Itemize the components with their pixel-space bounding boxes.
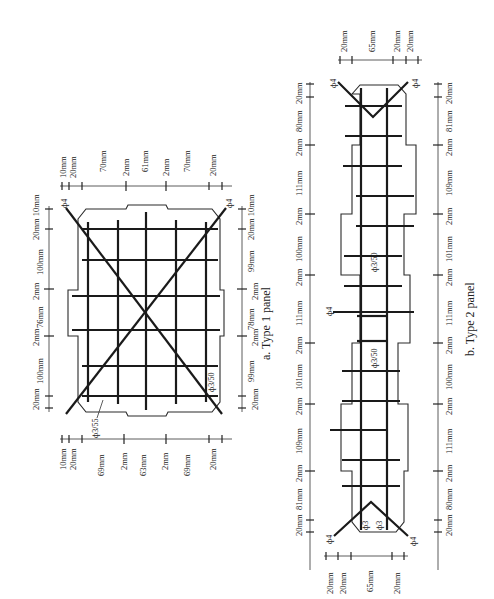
svg-text:100mm: 100mm: [35, 249, 45, 275]
svg-text:65mm: 65mm: [365, 570, 375, 592]
svg-text:2mm: 2mm: [294, 397, 304, 415]
type2-bottom-bar-label-1: ф3: [361, 521, 370, 530]
type2-diag-label-bottom-left: ф4: [325, 535, 334, 544]
svg-text:2mm: 2mm: [121, 158, 131, 176]
svg-text:20mm: 20mm: [250, 388, 260, 410]
svg-text:2mm: 2mm: [444, 336, 454, 354]
svg-text:100mm: 100mm: [444, 364, 454, 390]
svg-text:20mm: 20mm: [339, 30, 349, 52]
type2-left-dimension-line: [305, 82, 315, 570]
type1-right-dimension-labels: 20mm 10mm 99mm 2mm 78mm 2mm 99mm 20mm: [246, 194, 260, 410]
svg-text:2mm: 2mm: [160, 452, 170, 470]
svg-text:20mm: 20mm: [325, 572, 335, 594]
svg-text:2mm: 2mm: [444, 138, 454, 156]
svg-text:20mm: 20mm: [392, 30, 402, 52]
type2-transverse-rebars: [330, 106, 414, 486]
svg-text:2mm: 2mm: [294, 268, 304, 286]
svg-text:81mm: 81mm: [294, 488, 304, 510]
svg-text:109mm: 109mm: [294, 428, 304, 454]
svg-text:2mm: 2mm: [444, 464, 454, 482]
svg-text:81mm: 81mm: [444, 110, 454, 132]
type2-diag-label-top-right: ф4: [411, 79, 420, 88]
svg-text:69mm: 69mm: [96, 454, 106, 476]
svg-text:20mm: 20mm: [68, 156, 78, 178]
svg-text:2mm: 2mm: [294, 207, 304, 225]
svg-text:111mm: 111mm: [294, 300, 304, 326]
svg-text:100mm: 100mm: [294, 236, 304, 262]
type2-diag-label-bottom-right: ф4: [409, 537, 418, 546]
type1-mesh-label-left: ф3/55: [91, 419, 100, 438]
svg-text:111mm: 111mm: [444, 428, 454, 454]
svg-text:20mm: 20mm: [405, 30, 415, 52]
svg-text:20mm: 20mm: [392, 572, 402, 594]
svg-text:63mm: 63mm: [138, 454, 148, 476]
svg-text:61mm: 61mm: [140, 150, 150, 172]
type2-right-dimension-line: [433, 82, 443, 570]
svg-text:2mm: 2mm: [119, 452, 129, 470]
svg-text:20mm: 20mm: [294, 82, 304, 104]
svg-text:76mm: 76mm: [35, 306, 45, 328]
svg-text:70mm: 70mm: [182, 150, 192, 172]
type2-longitudinal-rebars: [361, 88, 387, 530]
type2-panel: 20mm 65mm 20mm 20mm 20mm 80mm 2mm 111mm …: [294, 30, 477, 594]
type1-top-dimension-line: [60, 181, 232, 191]
diagram-canvas: 10mm 20mm 70mm 2mm 61mm 2mm 70mm 20mm 20…: [0, 0, 494, 599]
type2-right-dimension-labels: 20mm 81mm 2mm 109mm 2mm 101mm 2mm 111mm …: [444, 82, 454, 536]
svg-text:20mm: 20mm: [31, 388, 41, 410]
svg-text:20mm: 20mm: [444, 82, 454, 104]
type1-panel: 10mm 20mm 70mm 2mm 61mm 2mm 70mm 20mm 20…: [31, 150, 273, 476]
type1-bottom-dimension-line: [60, 434, 232, 444]
type1-diag-label-top-left: ф4: [60, 199, 69, 208]
type2-bottom-dimension-line: [324, 552, 408, 560]
svg-text:10mm: 10mm: [58, 448, 68, 470]
type2-panel-outline: [341, 85, 416, 532]
svg-text:111mm: 111mm: [444, 300, 454, 326]
type1-caption: a. Type 1 panel: [259, 286, 273, 360]
type1-left-dimension-line: [44, 206, 54, 412]
type2-mesh-label-lower: ф3/50: [370, 349, 379, 368]
svg-text:65mm: 65mm: [367, 30, 377, 52]
svg-text:111mm: 111mm: [294, 170, 304, 196]
svg-text:20mm: 20mm: [444, 514, 454, 536]
type2-top-dimension-labels: 20mm 65mm 20mm 20mm: [339, 30, 415, 52]
svg-text:20mm: 20mm: [294, 514, 304, 536]
svg-text:2mm: 2mm: [444, 207, 454, 225]
svg-text:2mm: 2mm: [294, 138, 304, 156]
type1-top-dimension-labels: 10mm 20mm 70mm 2mm 61mm 2mm 70mm 20mm: [58, 150, 218, 178]
svg-text:69mm: 69mm: [182, 454, 192, 476]
svg-text:109mm: 109mm: [444, 170, 454, 196]
type2-diag-label-top-left: ф4: [329, 79, 338, 88]
type1-bottom-dimension-labels: 10mm 20mm 69mm 2mm 63mm 2mm 69mm 20mm: [58, 448, 218, 476]
svg-text:20mm: 20mm: [208, 154, 218, 176]
svg-text:80mm: 80mm: [444, 488, 454, 510]
svg-text:20mm: 20mm: [208, 448, 218, 470]
svg-text:101mm: 101mm: [294, 364, 304, 390]
type1-mesh-label-right: ф3/50: [207, 373, 216, 392]
svg-text:2mm: 2mm: [444, 268, 454, 286]
type2-end-diagonal-rebars: [334, 82, 408, 536]
type1-mesh-leader: [97, 400, 103, 418]
svg-text:2mm: 2mm: [294, 464, 304, 482]
type2-top-dimension-line: [338, 56, 422, 64]
svg-text:2mm: 2mm: [294, 336, 304, 354]
svg-text:20mm 10mm: 20mm 10mm: [31, 194, 41, 240]
type1-left-dimension-labels: 20mm 10mm 100mm 2mm 76mm 2mm 100mm 20mm: [31, 194, 45, 410]
type2-mesh-label-upper: ф3/50: [370, 253, 379, 272]
svg-text:100mm: 100mm: [35, 358, 45, 384]
svg-text:99mm: 99mm: [246, 360, 256, 382]
svg-text:2mm: 2mm: [31, 282, 41, 300]
svg-text:20mm 10mm: 20mm 10mm: [246, 194, 256, 240]
svg-text:70mm: 70mm: [98, 150, 108, 172]
type1-diag-label-top-right: ф4: [225, 199, 234, 208]
svg-text:80mm: 80mm: [294, 110, 304, 132]
svg-text:99mm: 99mm: [246, 250, 256, 272]
type2-caption: b. Type 2 panel: [463, 282, 477, 356]
svg-text:10mm: 10mm: [58, 156, 68, 178]
svg-text:20mm: 20mm: [338, 572, 348, 594]
svg-text:2mm: 2mm: [161, 158, 171, 176]
type2-left-dimension-labels: 20mm 80mm 2mm 111mm 2mm 100mm 2mm 111mm …: [294, 82, 304, 536]
type2-bottom-bar-label-2: ф3: [375, 521, 384, 530]
svg-text:78mm: 78mm: [246, 308, 256, 330]
svg-text:2mm: 2mm: [444, 397, 454, 415]
svg-text:2mm: 2mm: [31, 328, 41, 346]
